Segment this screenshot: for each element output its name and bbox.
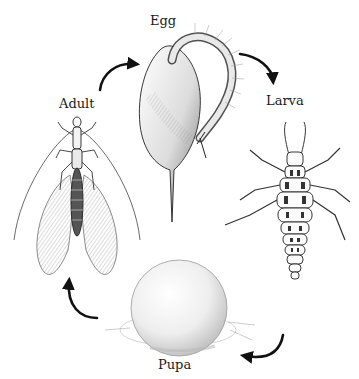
arrow-egg-to-larva: [240, 54, 273, 80]
arrow-pupa-to-adult: [69, 282, 97, 318]
stage-label-adult: Adult: [59, 96, 94, 111]
diagram-canvas: [0, 0, 359, 379]
arrow-adult-to-egg: [100, 64, 135, 90]
stage-label-pupa: Pupa: [158, 357, 191, 372]
stage-label-larva: Larva: [266, 93, 304, 108]
life-cycle-diagram: Egg Larva Pupa Adult: [0, 0, 359, 379]
stage-label-egg: Egg: [150, 13, 176, 28]
pupa-illustration: [105, 260, 255, 356]
larva-illustration: [225, 122, 350, 279]
arrow-larva-to-pupa: [245, 335, 283, 357]
adult-illustration: [14, 117, 140, 274]
egg-illustration: [139, 23, 244, 222]
